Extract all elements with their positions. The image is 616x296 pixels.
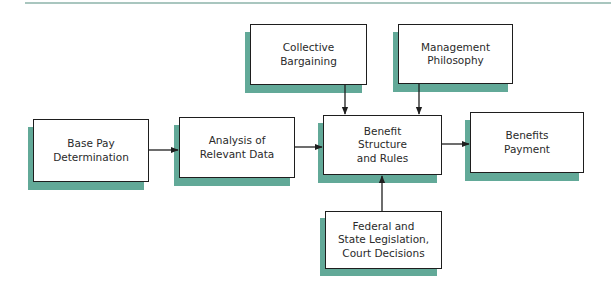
arrows-layer [0,0,616,296]
